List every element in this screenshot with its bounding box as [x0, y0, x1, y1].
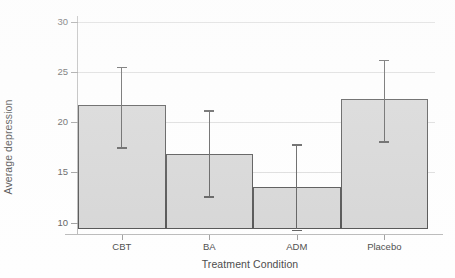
error-bar-cap-upper-cbt [117, 67, 127, 68]
error-bar-stem-placebo [384, 60, 385, 141]
bar-chart-figure: Average depression Treatment Condition 1… [0, 0, 455, 278]
y-tick-25 [71, 72, 78, 73]
error-bar-cap-lower-cbt [117, 147, 127, 148]
x-tick-adm [297, 235, 298, 240]
y-tick-20 [71, 122, 78, 123]
error-bar-cap-lower-adm [292, 230, 302, 231]
y-tick-30 [71, 22, 78, 23]
x-tick-cbt [122, 235, 123, 240]
error-bar-stem-cbt [121, 67, 122, 147]
error-bar-cap-lower-ba [204, 196, 214, 197]
y-tick-label-20: 20 [46, 117, 68, 127]
y-tick-10 [71, 223, 78, 224]
x-tick-label-placebo: Placebo [349, 241, 419, 252]
error-bar-stem-adm [296, 144, 297, 229]
x-tick-ba [209, 235, 210, 240]
y-tick-label-30: 30 [46, 17, 68, 27]
gridline-25 [78, 72, 435, 73]
error-bar-cap-upper-ba [204, 110, 214, 111]
error-bar-cap-upper-adm [292, 144, 302, 145]
y-tick-15 [71, 172, 78, 173]
x-tick-label-ba: BA [174, 241, 244, 252]
error-bar-cap-lower-placebo [379, 141, 389, 142]
y-tick-label-10: 10 [46, 218, 68, 228]
x-tick-label-adm: ADM [262, 241, 332, 252]
y-axis-tick-labels: 1015202530 [42, 0, 68, 278]
y-axis-title-text: Average depression [2, 100, 14, 195]
y-tick-label-15: 15 [46, 167, 68, 177]
y-tick-label-25: 25 [46, 67, 68, 77]
x-axis-title: Treatment Condition [60, 258, 440, 272]
error-bar-cap-upper-placebo [379, 60, 389, 61]
x-tick-label-cbt: CBT [87, 241, 157, 252]
gridline-30 [78, 22, 435, 23]
x-tick-placebo [384, 235, 385, 240]
y-axis-title: Average depression [0, 0, 16, 278]
error-bar-stem-ba [209, 110, 210, 196]
